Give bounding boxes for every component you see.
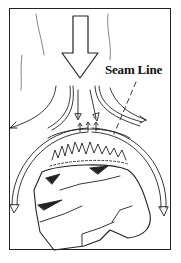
stone-shading [90,166,108,174]
flow-arrow-left-inner-a [48,86,70,128]
background-line [36,14,44,55]
up-arrow [86,122,90,131]
up-arrow [78,123,82,132]
seam-line-pointer [114,82,136,134]
seam-line-label: Seam Line [105,62,162,78]
flow-arrow-right-inner-b [99,86,142,122]
downward-flow-arrow [62,16,98,78]
outer-arc-left [12,128,88,205]
stone-crack [60,176,120,190]
stone-shading [46,174,60,184]
stone-shading [38,200,62,210]
stone-crack [112,206,132,222]
flow-arrow-center-right [90,90,96,118]
flow-arrow-left-outer [10,86,56,128]
arrowhead [10,205,19,213]
stone-crack [82,222,114,246]
flow-arrow-right-outer [110,88,146,120]
background-line [21,55,22,90]
grain-texture [52,142,126,160]
diagram-canvas [0,0,181,263]
background-line [108,14,111,60]
arrowhead [159,207,168,216]
flow-arrow-right-inner-a [95,86,140,126]
